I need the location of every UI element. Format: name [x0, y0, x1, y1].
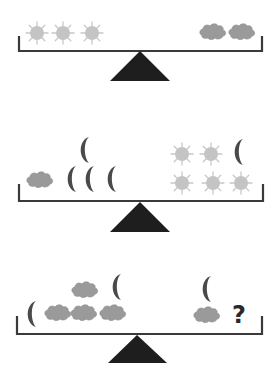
crescent-moon-icon: [203, 276, 211, 302]
crescent-moon-icon: [108, 166, 116, 192]
sun-icon: [171, 143, 193, 165]
crescent-moon-icon: [113, 274, 121, 300]
cloud-icon: [100, 305, 126, 321]
sun-icon: [202, 172, 224, 194]
crescent-moon-icon: [28, 301, 36, 327]
sun-icon: [52, 22, 74, 44]
cloud-icon: [72, 282, 98, 298]
cloud-icon: [45, 305, 71, 321]
sun-icon: [26, 22, 48, 44]
scale-2-fulcrum: [110, 202, 170, 232]
crescent-moon-icon: [235, 139, 243, 165]
scale-3: [17, 274, 262, 363]
crescent-moon-icon: [68, 166, 76, 192]
unknown-question-mark: ?: [232, 303, 246, 327]
scale-1-fulcrum: [110, 51, 170, 81]
cloud-icon: [71, 305, 97, 321]
cloud-icon: [200, 24, 226, 40]
cloud-icon: [194, 307, 220, 323]
scale-1-beam: [19, 36, 262, 51]
crescent-moon-icon: [81, 137, 89, 163]
sun-icon: [171, 172, 193, 194]
scale-2: [19, 137, 263, 232]
cloud-icon: [229, 24, 255, 40]
sun-icon: [230, 172, 252, 194]
scale-3-fulcrum: [108, 335, 167, 363]
sun-icon: [81, 22, 103, 44]
sun-icon: [200, 143, 222, 165]
crescent-moon-icon: [86, 166, 94, 192]
scale-2-beam: [19, 184, 263, 201]
cloud-icon: [27, 172, 53, 188]
scale-1: [19, 22, 262, 81]
